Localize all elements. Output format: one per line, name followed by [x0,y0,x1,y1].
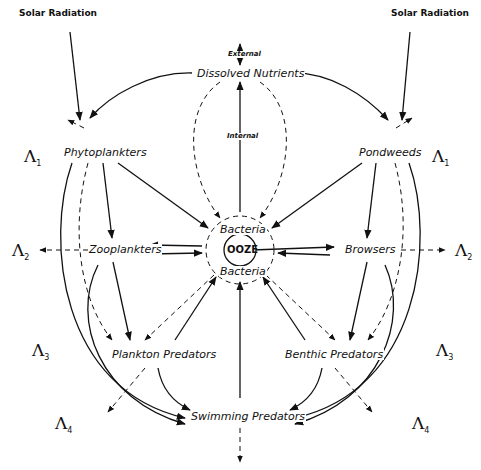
solar-radiation-left-label: Solar Radiation [18,9,98,18]
pondweeds-node: Pondweeds [358,147,423,158]
external-label: External [227,51,262,58]
solar-radiation-right-label: Solar Radiation [390,9,470,18]
lambda-2-left: Λ2 [12,242,29,262]
lambda-1-left: Λ1 [24,148,41,168]
internal-label: Internal [226,133,259,140]
nutrients-to-pondweeds [290,73,388,120]
nutrients-to-phyto [90,73,192,118]
zooplankters-node: Zooplankters [88,244,162,255]
bacteria-top-node: Bacteria [219,224,267,235]
lambda-3-left: Λ3 [32,342,49,362]
dissolved-nutrients-node: Dissolved Nutrients [196,68,305,79]
lambda-4-right: Λ4 [412,415,429,435]
bacteria-bottom-node: Bacteria [219,266,267,277]
browsers-node: Browsers [344,244,397,255]
solar-arrow-left [70,32,80,120]
swimming-predators-node: Swimming Predators [190,411,306,422]
lambda-2-right: Λ2 [455,242,472,262]
lambda-3-right: Λ3 [436,342,453,362]
lambda-4-left: Λ4 [55,415,72,435]
solar-arrow-right [402,32,410,120]
phytoplankters-node: Phytoplankters [63,147,148,158]
lambda-1-right: Λ1 [432,148,449,168]
plankton-predators-node: Plankton Predators [111,349,217,360]
benthic-predators-node: Benthic Predators [284,349,384,360]
ooze-node: OOZE [226,245,259,255]
